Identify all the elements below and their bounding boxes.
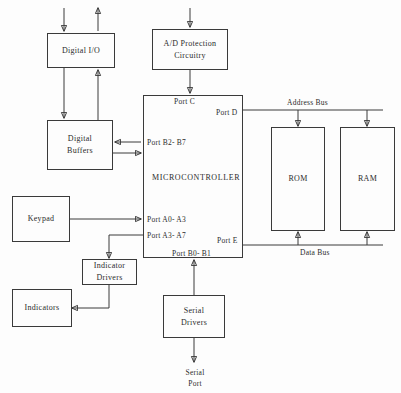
block-digital-buffers-line2: Buffers [67, 145, 93, 157]
block-digital-io-label: Digital I/O [62, 45, 100, 57]
block-ad-protection-line1: A/D Protection [164, 38, 217, 50]
block-microcontroller-label: MICROCONTROLLER [152, 173, 240, 182]
block-serial-drivers-line2: Drivers [181, 317, 207, 329]
block-digital-buffers-line1: Digital [68, 133, 92, 145]
block-serial-drivers-line1: Serial [184, 305, 204, 317]
block-ram: RAM [340, 127, 395, 231]
port-label-port-b2-b7: Port B2- B7 [147, 138, 186, 149]
block-ad-protection-line2: Circuitry [174, 50, 206, 62]
block-keypad-label: Keypad [28, 213, 55, 225]
block-indicators: Indicators [12, 289, 72, 327]
block-ad-protection-circuitry: A/D Protection Circuitry [152, 29, 228, 70]
block-digital-buffers: Digital Buffers [47, 120, 113, 170]
terminal-label-serial-port-line2: Port [181, 379, 209, 390]
block-serial-drivers: Serial Drivers [163, 295, 225, 338]
port-label-port-e: Port E [217, 236, 237, 247]
block-keypad: Keypad [12, 196, 70, 242]
block-indicator-drivers: Indicator Drivers [82, 259, 137, 285]
terminal-label-serial-port-line1: Serial [181, 368, 209, 379]
bus-label-address-bus: Address Bus [287, 98, 328, 109]
block-rom: ROM [271, 127, 325, 231]
port-label-port-b0-b1: Port B0- B1 [172, 249, 211, 260]
block-indicator-drivers-line2: Drivers [96, 272, 122, 284]
block-indicators-label: Indicators [25, 302, 60, 314]
block-diagram: Digital I/O A/D Protection Circuitry Dig… [0, 0, 401, 393]
port-label-port-a3-a7: Port A3- A7 [147, 231, 186, 242]
port-label-port-d: Port D [216, 108, 237, 119]
port-label-port-a0-a3: Port A0- A3 [147, 215, 186, 226]
block-indicator-drivers-line1: Indicator [94, 260, 126, 272]
block-digital-io: Digital I/O [47, 33, 115, 68]
port-label-port-c: Port C [174, 97, 195, 108]
block-rom-label: ROM [288, 173, 307, 185]
bus-label-data-bus: Data Bus [300, 248, 330, 259]
block-ram-label: RAM [358, 173, 377, 185]
